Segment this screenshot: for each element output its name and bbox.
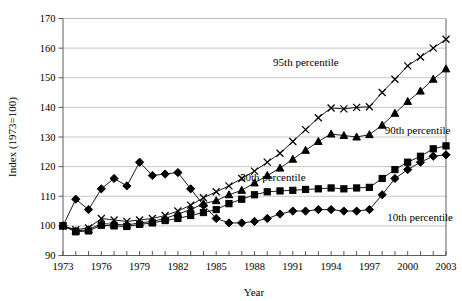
marker-diamond bbox=[301, 207, 309, 215]
x-tick-label: 1994 bbox=[321, 261, 343, 272]
marker-x bbox=[277, 150, 284, 157]
series-line bbox=[63, 69, 446, 231]
marker-square bbox=[328, 185, 334, 191]
x-tick-label: 2003 bbox=[436, 261, 457, 272]
series-annotation: 90th percentile bbox=[385, 124, 451, 136]
marker-square bbox=[251, 192, 257, 198]
marker-x bbox=[225, 182, 232, 189]
marker-diamond bbox=[289, 207, 297, 215]
marker-square bbox=[341, 186, 347, 192]
marker-square bbox=[98, 222, 104, 228]
x-tick-label: 1982 bbox=[167, 261, 188, 272]
marker-triangle bbox=[366, 131, 374, 138]
marker-triangle bbox=[238, 186, 246, 193]
series-annotation: 95th percentile bbox=[273, 56, 339, 68]
marker-square bbox=[366, 184, 372, 190]
x-tickmarks bbox=[63, 251, 446, 256]
series-annotation: 50th percentile bbox=[240, 171, 306, 183]
marker-x bbox=[264, 159, 271, 166]
marker-diamond bbox=[161, 170, 169, 178]
x-tick-label: 2000 bbox=[397, 261, 418, 272]
percentile-index-line-chart: 90100110120130140150160170 1973197619791… bbox=[0, 0, 462, 301]
y-axis-title: Index (1973=100) bbox=[6, 97, 19, 177]
marker-square bbox=[175, 215, 181, 221]
marker-diamond bbox=[340, 207, 348, 215]
x-tick-label: 1973 bbox=[53, 261, 74, 272]
y-tickmarks bbox=[59, 19, 64, 256]
marker-square bbox=[226, 201, 232, 207]
marker-square bbox=[213, 206, 219, 212]
x-tick-label: 1976 bbox=[91, 261, 112, 272]
marker-x bbox=[404, 62, 411, 69]
marker-diamond bbox=[314, 205, 322, 213]
marker-square bbox=[162, 217, 168, 223]
marker-square bbox=[315, 186, 321, 192]
marker-square bbox=[200, 209, 206, 215]
marker-square bbox=[443, 143, 449, 149]
y-tick-label: 100 bbox=[40, 220, 56, 231]
marker-diamond bbox=[174, 168, 182, 176]
x-tick-label: 1985 bbox=[206, 261, 227, 272]
x-tick-label: 1997 bbox=[359, 261, 380, 272]
marker-square bbox=[354, 185, 360, 191]
x-tick-labels: 1973197619791982198519881991199419972000… bbox=[53, 261, 457, 272]
marker-square bbox=[379, 175, 385, 181]
y-tick-label: 130 bbox=[40, 132, 56, 143]
marker-square bbox=[111, 223, 117, 229]
y-tick-label: 110 bbox=[40, 191, 55, 202]
y-tick-label: 150 bbox=[40, 72, 56, 83]
marker-triangle bbox=[404, 97, 412, 104]
marker-diamond bbox=[429, 152, 437, 160]
marker-diamond bbox=[442, 151, 450, 159]
marker-triangle bbox=[429, 75, 437, 82]
marker-diamond bbox=[250, 217, 258, 225]
marker-triangle bbox=[276, 164, 284, 171]
marker-diamond bbox=[123, 182, 131, 190]
marker-square bbox=[188, 212, 194, 218]
marker-x bbox=[302, 126, 309, 133]
marker-square bbox=[73, 229, 79, 235]
marker-square bbox=[277, 188, 283, 194]
marker-triangle bbox=[442, 65, 450, 72]
marker-square bbox=[149, 220, 155, 226]
marker-square bbox=[85, 228, 91, 234]
marker-square bbox=[392, 166, 398, 172]
marker-triangle bbox=[315, 137, 323, 144]
marker-x bbox=[417, 54, 424, 61]
marker-x bbox=[213, 188, 220, 195]
marker-square bbox=[137, 221, 143, 227]
y-tick-label: 160 bbox=[40, 43, 56, 54]
y-tick-label: 170 bbox=[40, 13, 56, 24]
x-axis-title: Year bbox=[244, 286, 265, 298]
marker-x bbox=[315, 114, 322, 121]
series-annotations: 95th percentile90th percentile50th perce… bbox=[240, 56, 453, 224]
x-tick-label: 1991 bbox=[282, 261, 303, 272]
y-tick-label: 120 bbox=[40, 161, 56, 172]
series-triangle bbox=[59, 65, 450, 234]
marker-diamond bbox=[353, 207, 361, 215]
marker-triangle bbox=[212, 197, 220, 204]
x-tick-label: 1988 bbox=[244, 261, 265, 272]
marker-square bbox=[290, 187, 296, 193]
y-tick-labels: 90100110120130140150160170 bbox=[40, 13, 56, 261]
marker-square bbox=[405, 159, 411, 165]
marker-x bbox=[391, 76, 398, 83]
marker-triangle bbox=[302, 146, 310, 153]
marker-square bbox=[430, 146, 436, 152]
marker-diamond bbox=[263, 214, 271, 222]
marker-diamond bbox=[327, 205, 335, 213]
marker-square bbox=[302, 186, 308, 192]
marker-square bbox=[124, 223, 130, 229]
marker-triangle bbox=[327, 130, 335, 137]
x-tick-label: 1979 bbox=[129, 261, 150, 272]
y-tick-label: 140 bbox=[40, 102, 56, 113]
marker-square bbox=[239, 196, 245, 202]
y-tick-label: 90 bbox=[45, 250, 56, 261]
marker-triangle bbox=[289, 155, 297, 162]
marker-diamond bbox=[187, 185, 195, 193]
marker-x bbox=[289, 138, 296, 145]
marker-x bbox=[379, 89, 386, 96]
marker-diamond bbox=[276, 210, 284, 218]
marker-diamond bbox=[391, 174, 399, 182]
series-annotation: 10th percentile bbox=[387, 211, 453, 223]
